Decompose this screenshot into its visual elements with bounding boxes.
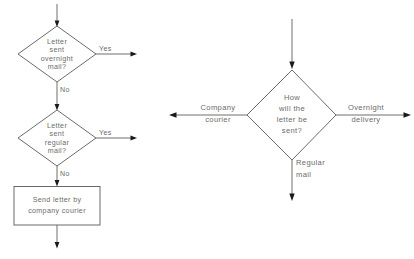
- multiway-decision-line-3: letter be: [277, 115, 308, 124]
- edge-label-overnight-delivery-line-1: Overnight: [348, 103, 385, 112]
- edge-label-regular-mail-line-1: Regular: [296, 158, 325, 167]
- edge-decision-2-yes: Yes: [96, 129, 137, 141]
- decision-2-line-2: sent: [50, 130, 65, 138]
- edge-label-decision-1-yes: Yes: [99, 45, 112, 53]
- edge-exit-from-process: [55, 225, 60, 249]
- left-flowchart: Letter sent overnight mail? Yes No Lette…: [14, 4, 137, 249]
- edge-branch-regular-mail: Regular mail: [289, 158, 325, 201]
- edge-decision-1-no: No: [55, 82, 70, 111]
- decision-1-line-2: sent: [50, 46, 65, 54]
- decision-1-line-4: mail?: [48, 63, 67, 71]
- decision-2-line-3: regular: [45, 139, 70, 147]
- edge-branch-overnight-delivery: Overnight delivery: [336, 103, 411, 124]
- decision-2-line-1: Letter: [47, 122, 68, 130]
- multiway-decision-line-1: How: [284, 93, 300, 102]
- decision-node-overnight-mail: Letter sent overnight mail?: [18, 26, 96, 82]
- edge-label-decision-2-yes: Yes: [99, 129, 112, 137]
- multiway-decision-line-4: sent?: [282, 126, 302, 135]
- edge-label-regular-mail-line-2: mail: [296, 170, 311, 179]
- flowchart-canvas: Letter sent overnight mail? Yes No Lette…: [0, 0, 414, 259]
- edge-entry-to-multiway-decision: [289, 19, 294, 69]
- edge-label-company-courier-line-2: courier: [205, 115, 231, 124]
- decision-node-regular-mail: Letter sent regular mail?: [18, 110, 96, 166]
- edge-label-decision-1-no: No: [60, 86, 70, 94]
- decision-node-how-sent: How will the letter be sent?: [247, 70, 336, 160]
- right-flowchart: How will the letter be sent? Company cou…: [169, 19, 411, 201]
- edge-decision-1-yes: Yes: [96, 45, 137, 57]
- edge-label-decision-2-no: No: [60, 170, 70, 178]
- edge-label-company-courier-line-1: Company: [201, 103, 236, 112]
- decision-1-line-3: overnight: [41, 55, 73, 63]
- multiway-decision-line-2: will the: [278, 104, 305, 113]
- edge-entry-to-decision-1: [55, 4, 60, 27]
- process-line-1: Send letter by: [33, 196, 82, 204]
- process-node-send-letter: Send letter by company courier: [14, 187, 100, 226]
- edge-decision-2-no: No: [55, 166, 70, 187]
- edge-branch-company-courier: Company courier: [169, 103, 247, 124]
- decision-2-line-4: mail?: [48, 147, 67, 155]
- edge-label-overnight-delivery-line-2: delivery: [352, 115, 381, 124]
- process-line-2: company courier: [28, 207, 86, 215]
- decision-1-line-1: Letter: [47, 38, 68, 46]
